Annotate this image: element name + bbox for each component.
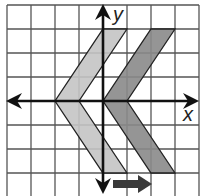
x-axis-label: x: [183, 104, 193, 124]
translation-arrow-icon: [113, 175, 152, 193]
coordinate-grid-diagram: y x: [0, 0, 205, 196]
grid-svg: [0, 0, 205, 196]
y-axis-label: y: [113, 4, 123, 24]
